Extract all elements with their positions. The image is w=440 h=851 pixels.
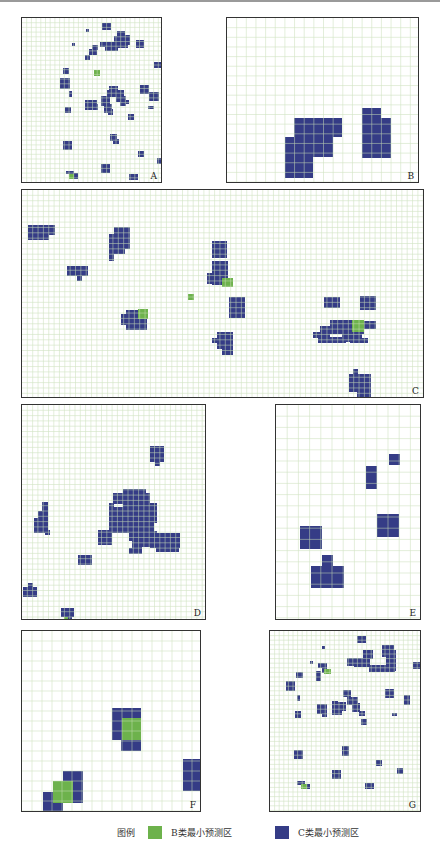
legend-title: 图例: [117, 826, 135, 839]
grid-lines: [270, 631, 421, 812]
map-panel-g: G: [269, 630, 421, 812]
c-class-zone: [322, 646, 325, 649]
c-class-zone: [122, 31, 124, 35]
c-class-zone: [121, 740, 141, 751]
c-class-zone: [45, 530, 50, 535]
b-class-zone: [222, 278, 233, 287]
c-class-zone: [322, 555, 333, 566]
c-class-zone: [150, 446, 164, 462]
panel-label: G: [409, 800, 416, 810]
c-class-zone: [107, 90, 124, 97]
panel-label: B: [407, 171, 414, 181]
c-class-zone: [332, 770, 341, 779]
c-class-zone: [311, 566, 344, 588]
c-class-zone: [69, 91, 72, 97]
c-class-zone: [212, 338, 222, 343]
c-class-swatch-icon: [275, 826, 289, 839]
panel-label: F: [190, 800, 196, 810]
grid-map: [22, 405, 206, 620]
grid-map: [227, 18, 419, 183]
map-panel-a: A: [21, 17, 162, 183]
legend-item-b-class: B类最小预测区: [148, 826, 232, 839]
map-panel-f: F: [21, 630, 201, 812]
grid-map: [270, 631, 421, 812]
c-class-zone: [322, 709, 327, 717]
c-class-zone: [140, 85, 149, 94]
c-class-zone: [376, 760, 382, 766]
legend-c-class-label: C类最小预测区: [298, 826, 359, 839]
grid-map: [22, 190, 424, 398]
map-panel-c: C: [21, 189, 424, 398]
c-class-zone: [349, 374, 371, 392]
panel-label: D: [194, 608, 201, 618]
c-class-zone: [285, 157, 313, 178]
grid-lines: [227, 18, 419, 183]
c-class-zone: [363, 650, 373, 659]
grid-map: [276, 405, 421, 620]
c-class-zone: [207, 273, 214, 284]
c-class-zone: [222, 349, 233, 355]
legend-b-class-label: B类最小预测区: [171, 826, 232, 839]
top-rule: [0, 0, 440, 2]
b-class-swatch-icon: [148, 826, 162, 839]
grid-map: [22, 18, 162, 183]
c-class-zone: [89, 49, 97, 55]
c-class-zone: [389, 454, 400, 465]
b-class-zone: [53, 781, 73, 803]
c-class-zone: [285, 137, 333, 157]
c-class-zone: [357, 636, 366, 643]
c-class-zone: [392, 713, 397, 716]
panel-label: A: [151, 171, 158, 181]
c-class-zone: [129, 548, 142, 554]
c-class-zone: [155, 462, 160, 466]
c-class-zone: [28, 225, 55, 235]
c-class-zone: [63, 68, 69, 74]
legend-title-text: 图例: [117, 826, 135, 839]
c-class-zone: [318, 663, 327, 668]
c-class-zone: [300, 526, 322, 549]
b-class-zone: [69, 174, 74, 179]
c-class-zone: [366, 466, 377, 489]
grid-lines: [22, 631, 201, 812]
c-class-zone: [295, 711, 301, 718]
grid-lines: [276, 405, 421, 620]
map-panel-d: D: [21, 404, 206, 620]
c-class-zone: [294, 750, 303, 759]
legend: 图例 B类最小预测区 C类最小预测区: [0, 820, 440, 844]
c-class-zone: [61, 608, 74, 617]
c-class-zone: [66, 171, 74, 174]
panel-label: E: [409, 608, 416, 618]
c-class-zone: [77, 276, 82, 281]
grid-map: [22, 631, 201, 812]
c-class-zone: [294, 118, 342, 137]
c-class-zone: [113, 493, 150, 504]
map-panel-e: E: [275, 404, 421, 620]
b-class-zone: [301, 784, 307, 789]
map-panel-b: B: [226, 17, 419, 183]
panel-label: C: [412, 386, 419, 396]
c-class-zone: [128, 114, 134, 120]
c-class-zone: [28, 235, 49, 240]
legend-item-c-class: C类最小预测区: [275, 826, 359, 839]
grid-lines: [22, 190, 424, 398]
